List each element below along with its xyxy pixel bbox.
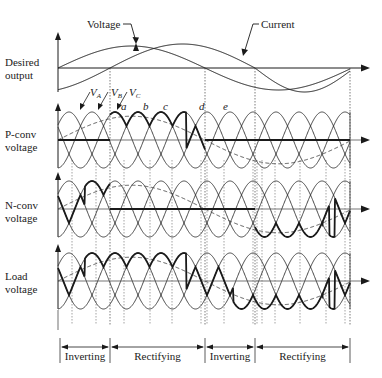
point-label-d: d	[199, 100, 205, 112]
nconv-y-axis-arrow-icon	[55, 172, 61, 180]
row-label-line2: voltage	[5, 141, 37, 153]
vb-leader-line	[100, 92, 108, 106]
mode-label-rectifying-1: Rectifying	[110, 350, 205, 362]
row-label-load: Load voltage	[5, 270, 37, 295]
mode-span-right-arrow-icon	[247, 345, 254, 350]
mode-span-left-arrow-icon	[111, 345, 118, 350]
phase-name: V	[129, 86, 136, 98]
current-leader-arrowhead-icon	[242, 49, 249, 57]
load-x-axis-arrow-icon	[361, 278, 370, 285]
nconv-output-bold-1	[255, 198, 350, 237]
phase-label-vc: VC	[129, 86, 140, 102]
mode-span-right-arrow-icon	[342, 345, 349, 350]
row-label-line1: P-conv	[5, 128, 37, 140]
row-label-line2: voltage	[5, 283, 37, 295]
current-leader-line	[245, 24, 259, 50]
voltage-leader-arrowhead-icon	[133, 37, 140, 44]
phase-sub: B	[118, 92, 122, 100]
row-label-line2: voltage	[5, 212, 38, 224]
mode-label-inverting-1: Inverting	[60, 350, 110, 362]
nconv-x-axis-arrow-icon	[361, 206, 370, 213]
row-label-pconv: P-conv voltage	[5, 128, 37, 153]
phase-name: V	[90, 86, 97, 98]
row-label-line1: Desired	[5, 56, 39, 68]
voltage-leader-line	[123, 24, 135, 38]
mode-label-inverting-2: Inverting	[205, 350, 255, 362]
point-label-b: b	[143, 100, 149, 112]
row-label-desired: Desired output	[5, 56, 39, 81]
mode-span-left-arrow-icon	[61, 345, 68, 350]
current-label: Current	[261, 18, 295, 30]
mode-span-right-arrow-icon	[102, 345, 109, 350]
voltage-leader-arrow-icon	[133, 43, 139, 51]
mode-span-right-arrow-icon	[197, 345, 204, 350]
va-leader-arrowhead-icon	[80, 103, 85, 110]
point-label-a: a	[121, 100, 127, 112]
phase-sub: A	[97, 92, 101, 100]
row-label-line2: output	[5, 69, 39, 81]
row-label-line1: N-conv	[5, 199, 38, 211]
desired-x-axis-arrow-icon	[361, 65, 370, 72]
voltage-label: Voltage	[87, 18, 120, 30]
phase-label-va: VA	[90, 86, 101, 102]
desired-y-axis-arrow-icon	[55, 32, 61, 40]
row-label-line1: Load	[5, 270, 37, 282]
row-label-nconv: N-conv voltage	[5, 199, 38, 224]
point-label-e: e	[223, 100, 228, 112]
phase-name: V	[111, 86, 118, 98]
point-label-c: c	[163, 100, 168, 112]
load-y-axis-arrow-icon	[55, 244, 61, 252]
mode-span-left-arrow-icon	[206, 345, 213, 350]
pconv-y-axis-arrow-icon	[55, 103, 61, 111]
mode-label-rectifying-2: Rectifying	[255, 350, 350, 362]
pconv-x-axis-arrow-icon	[361, 137, 370, 144]
phase-sub: C	[136, 92, 141, 100]
waveform-diagram	[0, 0, 382, 378]
mode-span-left-arrow-icon	[256, 345, 263, 350]
vb-leader-arrowhead-icon	[98, 103, 103, 110]
va-leader-line	[82, 92, 90, 106]
